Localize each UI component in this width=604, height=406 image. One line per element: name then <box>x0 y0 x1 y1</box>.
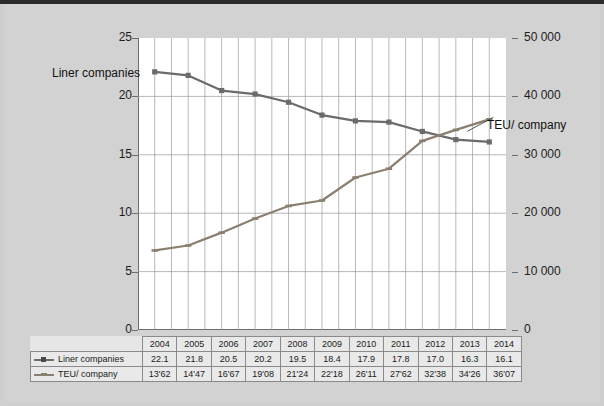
left-axis-tick-label: 10 <box>119 206 132 218</box>
table-year-cell: 2010 <box>349 337 383 352</box>
table-value-cell: 18.4 <box>315 352 349 367</box>
table-value-cell: 34'26 <box>452 367 486 382</box>
right-axis-tick-mark <box>512 272 518 273</box>
table-year-cell: 2011 <box>384 337 418 352</box>
right-axis-tick-mark <box>512 330 518 331</box>
table-row: Liner companies22.121.820.520.219.518.41… <box>31 352 522 367</box>
table-year-cell: 2007 <box>246 337 280 352</box>
figure-root: 0510152025 010 00020 00030 00040 00050 0… <box>0 0 604 406</box>
table-year-cell: 2009 <box>315 337 349 352</box>
table-year-cell: 2006 <box>211 337 245 352</box>
table-year-cell: 2005 <box>177 337 211 352</box>
plot-area <box>138 38 506 330</box>
liner-companies-annotation: Liner companies <box>52 66 140 80</box>
table-value-cell: 32'38 <box>418 367 452 382</box>
plot-svg <box>138 38 506 330</box>
left-y-axis: 0510152025 <box>88 38 132 330</box>
right-axis-tick-label: 10 000 <box>524 265 561 277</box>
table-value-cell: 13'62 <box>143 367 177 382</box>
right-axis-tick-label: 20 000 <box>524 206 561 218</box>
table-value-cell: 20.5 <box>211 352 245 367</box>
table-value-cell: 22.1 <box>143 352 177 367</box>
table-value-cell: 14'47 <box>177 367 211 382</box>
table-value-cell: 16.3 <box>452 352 486 367</box>
table-year-cell: 2004 <box>143 337 177 352</box>
teu-company-annotation: TEU/ company <box>487 118 566 132</box>
left-axis-tick-label: 25 <box>119 31 132 43</box>
table-row-header: TEU/ company <box>31 367 143 382</box>
left-axis-tick-label: 20 <box>119 89 132 101</box>
right-axis-tick-mark <box>512 38 518 39</box>
table-value-cell: 16'67 <box>211 367 245 382</box>
table-row-header: Liner companies <box>31 352 143 367</box>
left-axis-tick-label: 0 <box>125 323 132 335</box>
table-value-cell: 36'07 <box>487 367 521 382</box>
table-year-cell: 2013 <box>452 337 486 352</box>
data-table: 2004200520062007200820092010201120122013… <box>30 336 522 382</box>
right-axis-tick-label: 40 000 <box>524 89 561 101</box>
table-value-cell: 21.8 <box>177 352 211 367</box>
table-value-cell: 22'18 <box>315 367 349 382</box>
table-row: TEU/ company13'6214'4716'6719'0821'2422'… <box>31 367 522 382</box>
table-corner-cell <box>31 337 143 352</box>
left-axis-tick-label: 5 <box>125 265 132 277</box>
right-axis-tick-label: 0 <box>524 323 531 335</box>
table-value-cell: 27'62 <box>384 367 418 382</box>
table-value-cell: 17.9 <box>349 352 383 367</box>
legend-label: Liner companies <box>58 354 124 364</box>
legend-marker-icon <box>34 356 54 363</box>
right-axis-tick-mark <box>512 155 518 156</box>
table-value-cell: 19'08 <box>246 367 280 382</box>
right-axis-tick-mark <box>512 96 518 97</box>
table-value-cell: 21'24 <box>280 367 314 382</box>
table-row-years: 2004200520062007200820092010201120122013… <box>31 337 522 352</box>
table-value-cell: 17.8 <box>384 352 418 367</box>
table-year-cell: 2012 <box>418 337 452 352</box>
table-year-cell: 2014 <box>487 337 521 352</box>
table-year-cell: 2008 <box>280 337 314 352</box>
legend-marker-icon <box>34 371 54 378</box>
right-axis-tick-mark <box>512 213 518 214</box>
right-axis-tick-label: 50 000 <box>524 31 561 43</box>
legend-label: TEU/ company <box>58 369 118 379</box>
table-value-cell: 26'11 <box>349 367 383 382</box>
right-axis-tick-label: 30 000 <box>524 148 561 160</box>
table-value-cell: 17.0 <box>418 352 452 367</box>
right-y-axis: 010 00020 00030 00040 00050 000 <box>512 38 592 330</box>
left-axis-tick-mark <box>132 330 138 331</box>
table-value-cell: 19.5 <box>280 352 314 367</box>
left-axis-tick-label: 15 <box>119 148 132 160</box>
table-value-cell: 20.2 <box>246 352 280 367</box>
table-value-cell: 16.1 <box>487 352 521 367</box>
